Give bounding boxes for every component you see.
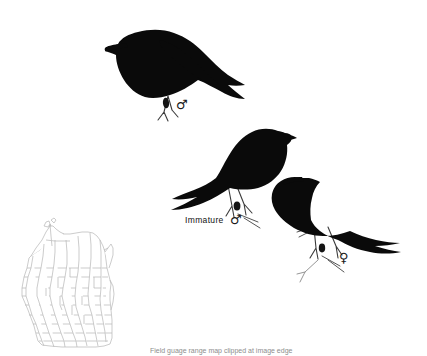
bird-female-legs (297, 227, 344, 272)
female-symbol: ♀ (339, 251, 349, 264)
male-symbol-immature: ♂ (230, 213, 242, 226)
bird-female-body (272, 177, 401, 254)
bird-female (0, 0, 427, 356)
bird-immature-male (0, 0, 427, 356)
wisconsin-county-map (0, 0, 427, 356)
label-immature: Immature (185, 215, 224, 225)
bird-adult-male (0, 0, 427, 356)
perch-twig (0, 0, 427, 356)
bird-immature-male-body (171, 129, 297, 210)
bird-identification-plate: Immature ♂ ♂ ♀ Field guage range map cli… (0, 0, 427, 356)
bird-adult-male-legs (152, 91, 178, 121)
male-symbol-adult: ♂ (176, 98, 188, 111)
bird-adult-male-body (105, 30, 245, 99)
plate-caption: Field guage range map clipped at image e… (150, 347, 420, 356)
